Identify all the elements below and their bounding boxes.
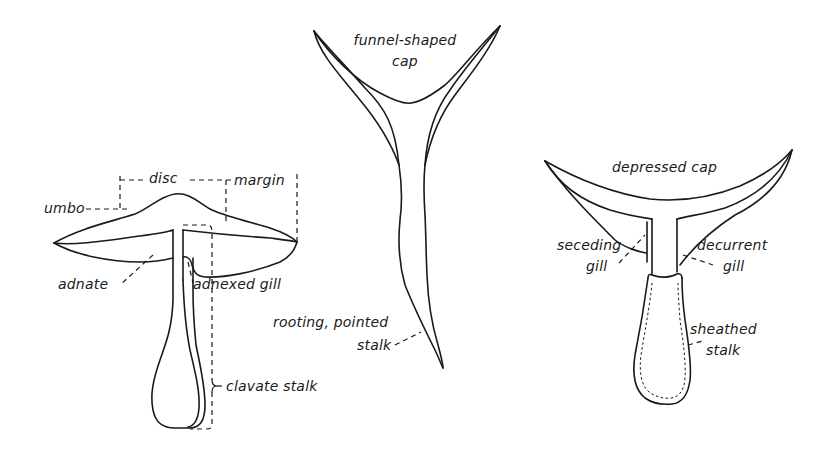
adnate-leader [120, 255, 153, 285]
clavate-bracket [183, 225, 212, 429]
left-stalk-left [152, 230, 205, 428]
label-disc: disc [149, 170, 178, 186]
clavate-brace [212, 380, 217, 392]
right-sheath-inner [640, 283, 685, 398]
label-rooting-pointed: rooting, pointed [273, 314, 388, 330]
label-depressed-cap: depressed cap [612, 159, 717, 175]
mushroom-diagram: disc margin umbo adnate adnexed gill cla… [0, 0, 838, 465]
rooting-leader [395, 332, 421, 345]
label-clavate-stalk: clavate stalk [226, 378, 318, 394]
seceding-leader [619, 235, 645, 263]
label-rooting-stalk: stalk [357, 337, 391, 353]
left-gill-right-edge [183, 242, 297, 277]
left-gill-left-edge [54, 243, 173, 262]
decurrent-leader [683, 255, 713, 265]
center-gill-left [314, 31, 399, 165]
center-stalk-right [424, 165, 443, 368]
sheathed-leader [688, 341, 703, 345]
diagram-drawing [0, 0, 838, 465]
label-funnel-cap: cap [350, 53, 460, 69]
center-cap-outer-left [314, 31, 399, 165]
label-adnate: adnate [58, 276, 108, 292]
label-funnel-shaped: funnel-shaped [350, 32, 460, 48]
right-mushroom [545, 150, 792, 404]
right-sheath-body [634, 278, 691, 404]
left-stalk-outline [183, 280, 199, 427]
label-decurrent: decurrent [697, 237, 767, 253]
left-cap-upper [54, 194, 297, 243]
label-margin: margin [234, 172, 285, 188]
right-stalk-neck [652, 219, 677, 275]
right-sheath-top [648, 274, 682, 278]
label-sheathed-stalk: stalk [706, 342, 740, 358]
left-cap-lower-left [54, 230, 173, 244]
label-umbo: umbo [44, 200, 85, 216]
label-decurrent-gill: gill [723, 258, 744, 274]
label-sheathed: sheathed [690, 321, 757, 337]
label-adnexed-gill: adnexed gill [193, 276, 281, 292]
label-seceding-gill: gill [586, 258, 607, 274]
label-seceding: seceding [557, 237, 621, 253]
